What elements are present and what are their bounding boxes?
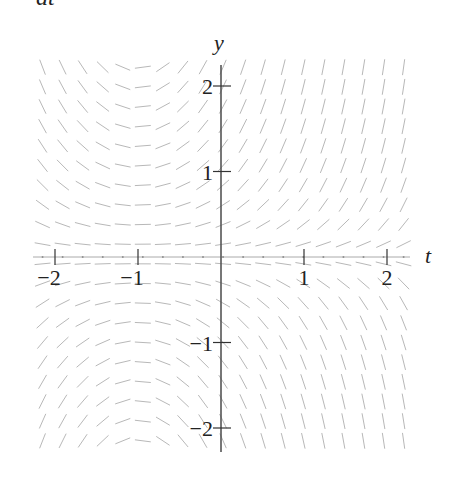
slope-segment — [199, 60, 207, 74]
slope-segment — [216, 299, 230, 307]
slope-segment — [362, 433, 365, 449]
slope-segment — [196, 319, 210, 327]
slope-segment — [135, 362, 151, 363]
slope-segment — [115, 124, 130, 128]
slope-segment — [36, 299, 49, 308]
slope-segment — [176, 339, 190, 347]
slope-segment — [195, 222, 210, 227]
slope-segment — [396, 262, 411, 266]
slope-segment — [135, 401, 151, 403]
slope-segment — [78, 61, 87, 74]
slope-segment — [237, 299, 250, 308]
slope-segment — [362, 413, 365, 429]
slope-segment — [195, 263, 211, 264]
slope-segment — [97, 416, 109, 426]
slope-segment — [317, 219, 329, 230]
slope-segment — [177, 121, 189, 131]
slope-segment — [301, 79, 305, 95]
slope-segment — [400, 198, 407, 212]
slope-segment — [341, 138, 346, 153]
slope-segment — [155, 183, 170, 187]
y-tick-label: 2 — [202, 74, 213, 99]
slope-segment — [362, 59, 365, 75]
slope-segment — [402, 433, 404, 449]
slope-segment — [55, 222, 70, 227]
slope-segment — [218, 356, 228, 369]
slope-segment — [37, 336, 47, 348]
slope-segment — [95, 244, 111, 245]
slope-segment — [115, 341, 131, 344]
slope-segment — [239, 375, 246, 389]
slope-segment — [361, 158, 366, 173]
slope-segment — [55, 243, 71, 245]
slope-segment — [359, 198, 367, 212]
slope-segment — [95, 223, 111, 226]
slope-segment — [175, 223, 191, 226]
slope-segment — [302, 433, 306, 449]
slope-segment — [58, 140, 68, 152]
slope-segment — [75, 263, 91, 264]
slope-segment — [115, 302, 131, 304]
slope-segment — [296, 242, 311, 247]
slope-segment — [319, 198, 328, 211]
slope-segment — [75, 243, 91, 245]
slope-segment — [261, 433, 266, 448]
slope-segment — [382, 138, 386, 154]
slope-segment — [337, 279, 350, 289]
slope-segment — [300, 158, 307, 173]
slope-segment — [316, 242, 331, 247]
slope-segment — [38, 356, 47, 369]
slope-segment — [155, 321, 171, 325]
slope-segment — [175, 244, 191, 245]
slope-segment — [301, 374, 306, 389]
slope-segment — [115, 399, 130, 404]
slope-segment — [317, 279, 330, 288]
slope-segment — [361, 335, 366, 350]
slope-field-plot: −2−11221−1−2ty — [0, 0, 455, 487]
slope-segment — [95, 282, 111, 284]
y-tick-label: 1 — [202, 160, 213, 185]
slope-segment — [341, 374, 345, 389]
slope-segment — [255, 242, 271, 246]
slope-segment — [280, 355, 287, 370]
slope-segment — [376, 241, 391, 248]
slope-segment — [258, 179, 268, 192]
slope-segment — [301, 394, 305, 409]
slope-segment — [322, 413, 326, 429]
slope-segment — [281, 79, 285, 94]
slope-segment — [57, 160, 68, 171]
slope-segment — [236, 221, 250, 228]
slope-segment — [281, 119, 286, 134]
slope-segment — [195, 282, 211, 286]
slope-segment — [178, 61, 188, 73]
slope-segment — [35, 243, 51, 246]
slope-segment — [261, 60, 265, 75]
y-tick-label: −1 — [190, 331, 213, 356]
slope-segment — [342, 394, 346, 410]
slope-segment — [175, 202, 190, 207]
slope-segment — [155, 143, 170, 149]
slope-segment — [358, 219, 369, 231]
slope-segment — [39, 414, 45, 429]
slope-segment — [236, 281, 251, 287]
slope-segment — [176, 161, 190, 169]
slope-segment — [259, 159, 267, 173]
slope-segment — [135, 145, 151, 146]
slope-segment — [336, 241, 351, 247]
slope-segment — [216, 201, 229, 210]
slope-segment — [320, 158, 326, 173]
slope-segment — [57, 356, 67, 368]
slope-segment — [321, 355, 326, 370]
slope-segment — [58, 100, 66, 114]
slope-segment — [76, 181, 90, 189]
slope-segment — [35, 221, 50, 228]
slope-segment — [321, 118, 325, 133]
slope-segment — [396, 241, 410, 248]
slope-segment — [276, 242, 291, 246]
slope-segment — [76, 161, 89, 170]
slope-segment — [340, 178, 347, 192]
slope-segment — [78, 80, 87, 93]
slope-segment — [362, 394, 365, 410]
slope-segment — [281, 413, 285, 428]
slope-segment — [198, 100, 207, 113]
